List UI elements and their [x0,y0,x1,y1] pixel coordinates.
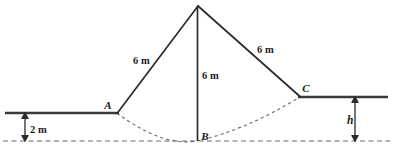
left-depth-dimension [22,113,29,142]
altitude-length-label: 6 m [202,70,219,81]
dam-cross-section-figure: A B C 6 m 6 m 6 m 2 m h [0,0,394,147]
point-label-c: C [302,82,310,94]
point-label-b: B [200,130,208,142]
figure-canvas: A B C 6 m 6 m 6 m 2 m h [0,0,394,147]
left-side-length-label: 6 m [133,55,150,66]
left-depth-label: 2 m [30,124,47,135]
left-slope-line [117,6,198,114]
point-label-a: A [103,99,111,111]
right-depth-label: h [347,114,353,126]
right-slope-line [198,6,301,97]
right-side-length-label: 6 m [257,44,274,55]
